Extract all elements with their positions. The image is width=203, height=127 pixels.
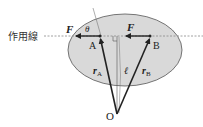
- line-of-action-label: 作用線: [8, 30, 38, 42]
- point-b-label: B: [153, 40, 160, 51]
- force-label-right: F: [126, 21, 135, 33]
- angle-label: θ: [85, 24, 90, 34]
- force-label-left: F: [65, 23, 74, 35]
- point-b: [149, 35, 152, 38]
- torque-diagram: 作用線 F F θ A B rA rB ℓ O: [0, 0, 203, 127]
- origin-label: O: [106, 110, 114, 122]
- arm-label: ℓ: [124, 65, 128, 76]
- point-a-label: A: [89, 40, 97, 51]
- point-a: [99, 35, 102, 38]
